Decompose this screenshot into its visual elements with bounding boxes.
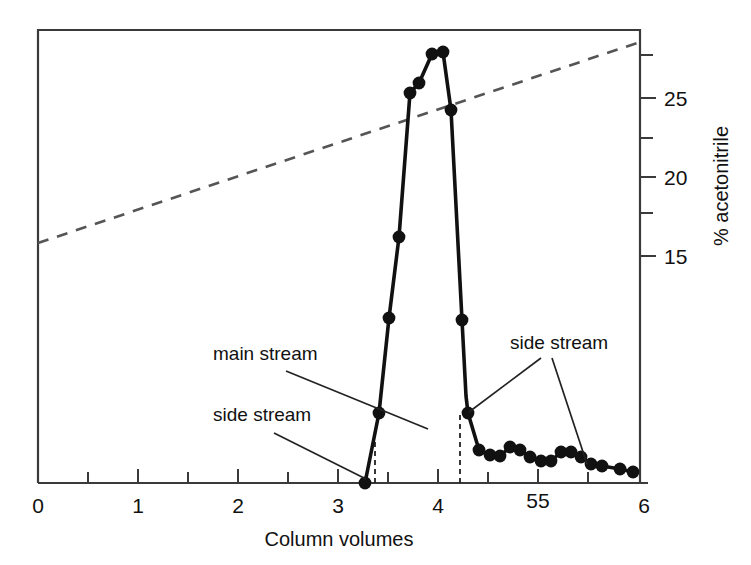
y-tick-label-15: 15	[664, 245, 687, 268]
y-axis-ticks	[640, 55, 656, 256]
x-tick-label-5: 55	[526, 489, 549, 512]
annotation-main-stream: main stream	[213, 343, 318, 364]
x-tick-label-1: 1	[132, 494, 144, 517]
plot-frame	[38, 30, 648, 483]
y-axis-title: % acetonitrile	[710, 126, 732, 246]
leader-side-stream-right-a	[469, 358, 541, 412]
annotation-side-stream-right: side stream	[510, 332, 608, 353]
x-tick-label-3: 3	[332, 494, 344, 517]
y-tick-label-25: 25	[664, 87, 687, 110]
x-tick-label-2: 2	[232, 494, 244, 517]
elution-profile-markers	[359, 46, 640, 490]
y-tick-label-20: 20	[664, 166, 687, 189]
x-tick-label-0: 0	[32, 494, 44, 517]
x-axis-title: Column volumes	[265, 528, 414, 550]
chart-svg: 0 1 2 3 4 55 6 Column volumes 25 20 15 %…	[0, 0, 751, 565]
x-tick-label-4: 4	[432, 494, 444, 517]
annotation-side-stream-left: side stream	[213, 404, 311, 425]
x-axis-ticks	[38, 469, 640, 483]
acetonitrile-gradient-line	[38, 42, 640, 243]
chart-figure: 0 1 2 3 4 55 6 Column volumes 25 20 15 %…	[0, 0, 751, 565]
x-tick-labels: 0 1 2 3 4 55 6	[32, 489, 650, 517]
elution-profile-line	[365, 52, 633, 483]
y-tick-labels: 25 20 15	[664, 87, 687, 268]
x-tick-label-6: 6	[638, 494, 650, 517]
